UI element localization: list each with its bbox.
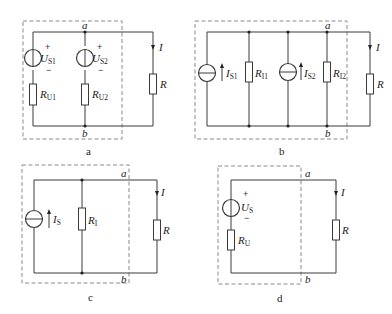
node-label-b: b	[305, 273, 311, 285]
voltage-source-us	[223, 200, 240, 217]
equivalent-boundary-a	[23, 21, 122, 139]
caption-d: d	[277, 292, 283, 304]
plus-sign: +	[243, 189, 248, 199]
source-label-is1: IS1	[225, 67, 238, 81]
resistor-load-b	[367, 74, 374, 94]
source-arrow-icon	[220, 63, 224, 68]
minus-sign: −	[98, 65, 103, 75]
panel-a: a b I R + − US1 + − US2 RU1 RU2 a	[23, 19, 167, 157]
node-label-b: b	[82, 127, 88, 139]
minus-sign: −	[46, 65, 51, 75]
resistor-ru	[228, 230, 235, 250]
current-source-is1	[199, 65, 216, 82]
source-label-is: IS	[52, 213, 61, 227]
resistor-label-ri: RI	[87, 214, 98, 228]
plus-sign: +	[45, 42, 50, 52]
resistor-load-a	[150, 74, 157, 94]
resistor-label-ri2: RI2	[332, 67, 346, 81]
resistor-ri1	[246, 62, 253, 82]
load-label: R	[341, 224, 349, 236]
voltage-source-us2	[77, 50, 94, 67]
load-label: R	[159, 78, 167, 90]
current-label: I	[340, 186, 346, 198]
current-arrow-icon	[334, 191, 338, 196]
panel-b: a b I R IS1 RI1 IS2 RI2 b	[195, 19, 384, 157]
resistor-label-ri1: RI1	[254, 67, 268, 81]
source-arrow-icon	[299, 62, 303, 67]
plus-sign: +	[97, 42, 102, 52]
caption-c: c	[88, 291, 93, 303]
node-label-a: a	[82, 19, 88, 31]
circuit-figure: a b I R + − US1 + − US2 RU1 RU2 a	[0, 0, 392, 314]
node-label-a: a	[325, 19, 331, 31]
resistor-load-c	[154, 220, 161, 240]
current-arrow-icon	[155, 191, 159, 196]
load-label: R	[162, 224, 170, 236]
resistor-label-ru: RU	[237, 234, 251, 248]
source-label-us: US	[241, 201, 253, 215]
panel-d: a b I R + − US RU d	[218, 166, 349, 304]
voltage-source-us1	[25, 50, 42, 67]
resistor-ru1	[30, 84, 37, 105]
source-label-us1: US1	[40, 52, 56, 66]
source-arrow-icon	[47, 209, 51, 214]
current-source-is	[26, 211, 43, 228]
current-label: I	[160, 186, 166, 198]
resistor-ru2	[82, 84, 89, 105]
node-label-b: b	[325, 127, 331, 139]
node-label-b: b	[121, 273, 127, 285]
node-label-a: a	[121, 167, 127, 179]
equivalent-boundary-d	[218, 166, 301, 284]
load-label: R	[376, 78, 384, 90]
current-label: I	[375, 41, 381, 53]
resistor-label-ru2: RU2	[91, 88, 108, 102]
source-label-is2: IS2	[303, 67, 316, 81]
current-arrow-icon	[368, 45, 372, 50]
current-label: I	[158, 41, 164, 53]
source-label-us2: US2	[92, 52, 108, 66]
caption-b: b	[279, 145, 285, 157]
resistor-label-ru1: RU1	[39, 88, 56, 102]
node-label-a: a	[305, 167, 311, 179]
resistor-ri2	[324, 62, 331, 82]
current-source-is2	[280, 64, 297, 81]
resistor-ri	[79, 208, 86, 230]
current-arrow-icon	[151, 45, 155, 50]
panel-c: a b I R IS RI c	[22, 165, 170, 303]
caption-a: a	[86, 145, 91, 157]
resistor-load-d	[333, 220, 340, 240]
